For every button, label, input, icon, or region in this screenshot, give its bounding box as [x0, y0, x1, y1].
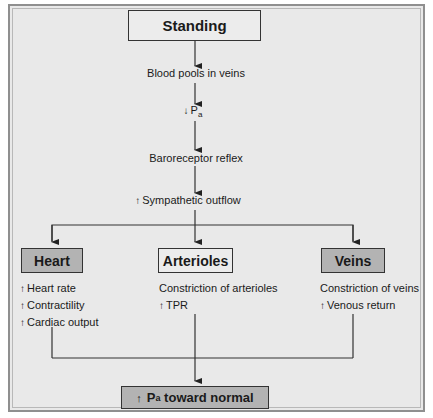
subscript: a: [198, 110, 202, 119]
down-arrow-icon: ↓: [184, 105, 189, 116]
chain-step-text: Baroreceptor reflex: [149, 152, 243, 164]
effect-text: TPR: [166, 299, 188, 311]
up-arrow-icon: ↑: [136, 392, 142, 404]
heart-label: Heart: [34, 253, 70, 269]
arterioles-node: Arterioles: [158, 248, 233, 273]
effect-item: Constriction of arterioles: [159, 280, 278, 297]
arterioles-effects: Constriction of arterioles ↑TPR: [159, 280, 278, 314]
effect-text: Constriction of veins: [320, 282, 419, 294]
heart-node: Heart: [21, 248, 83, 273]
chain-step-pa-decrease: ↓Pa: [184, 104, 203, 119]
effect-item: ↑Cardiac output: [20, 314, 99, 331]
effect-item: ↑TPR: [159, 297, 278, 314]
arterioles-label: Arterioles: [163, 253, 228, 269]
effect-item: Constriction of veins: [320, 280, 419, 297]
effect-text: Constriction of arterioles: [159, 282, 278, 294]
up-arrow-icon: ↑: [320, 300, 325, 311]
effect-item: ↑Contractility: [20, 297, 99, 314]
veins-label: Veins: [335, 253, 372, 269]
chain-step-text: Blood pools in veins: [147, 67, 245, 79]
outcome-text-rest: toward normal: [161, 390, 254, 405]
effect-text: Contractility: [27, 299, 84, 311]
chain-step-blood-pools: Blood pools in veins: [147, 67, 245, 79]
effect-item: ↑Venous return: [320, 297, 419, 314]
standing-label: Standing: [162, 17, 226, 34]
chain-step-baroreceptor: Baroreceptor reflex: [149, 152, 243, 164]
connector-lines: [0, 0, 433, 418]
effect-text: Venous return: [327, 299, 396, 311]
chain-step-sympathetic: ↑Sympathetic outflow: [135, 194, 240, 206]
effect-item: ↑Heart rate: [20, 280, 99, 297]
chain-step-text: Sympathetic outflow: [142, 194, 240, 206]
standing-node: Standing: [128, 10, 261, 41]
up-arrow-icon: ↑: [20, 300, 25, 311]
up-arrow-icon: ↑: [159, 300, 164, 311]
veins-effects: Constriction of veins ↑Venous return: [320, 280, 419, 314]
outcome-text: P: [147, 390, 156, 405]
up-arrow-icon: ↑: [20, 283, 25, 294]
veins-node: Veins: [321, 248, 385, 273]
outcome-node: ↑Pa toward normal: [121, 386, 269, 409]
heart-effects: ↑Heart rate ↑Contractility ↑Cardiac outp…: [20, 280, 99, 331]
effect-text: Cardiac output: [27, 316, 99, 328]
effect-text: Heart rate: [27, 282, 76, 294]
up-arrow-icon: ↑: [135, 195, 140, 206]
up-arrow-icon: ↑: [20, 317, 25, 328]
